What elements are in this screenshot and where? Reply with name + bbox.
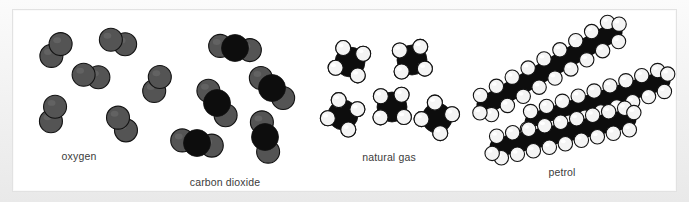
carbon-atom <box>222 35 249 62</box>
label-oxygen: oxygen <box>62 150 97 162</box>
hydrogen-atom <box>521 122 535 136</box>
figure-root: oxygen carbon dioxide natural gas petrol <box>0 0 689 202</box>
hydrogen-atom <box>489 79 503 93</box>
hydrogen-atom <box>473 106 487 120</box>
natural-gas-molecules-svg <box>313 10 478 191</box>
hydrogen-atom <box>601 105 615 119</box>
oxygen-atom <box>49 33 72 56</box>
hydrogen-atom <box>350 102 365 117</box>
oxygen-molecule <box>72 63 110 89</box>
hydrogen-atom <box>542 140 556 154</box>
hydrogen-atom <box>539 99 553 113</box>
carbon-dioxide-molecules-svg <box>153 10 323 191</box>
hydrogen-atom <box>489 129 503 143</box>
oxygen-atom <box>44 95 67 118</box>
oxygen-atom <box>72 63 95 86</box>
group-petrol: petrol <box>463 10 676 191</box>
hydrogen-atom <box>373 89 388 104</box>
methane-molecule <box>373 87 411 125</box>
carbon-atom <box>204 90 231 117</box>
hydrogen-atom <box>350 68 365 83</box>
hydrogen-atom <box>569 34 583 48</box>
hydrogen-atom <box>485 146 499 160</box>
hydrogen-atom <box>548 71 562 85</box>
illustration-panel: oxygen carbon dioxide natural gas petrol <box>12 9 677 192</box>
hydrogen-atom <box>396 109 411 124</box>
hydrogen-atom <box>660 67 674 81</box>
hydrogen-atom <box>510 147 524 161</box>
group-carbon-dioxide: carbon dioxide <box>153 10 323 191</box>
hydrogen-atom <box>427 95 442 110</box>
methane-molecule <box>414 95 460 141</box>
hydrogen-atom <box>635 68 649 82</box>
group-natural-gas: natural gas <box>313 10 478 191</box>
hydrogen-atom <box>537 119 551 133</box>
hydrogen-atom <box>521 61 535 75</box>
hydrogen-atom <box>537 52 551 66</box>
hydrogen-atom <box>580 53 594 67</box>
hydrogen-atom <box>590 130 604 144</box>
hydrogen-atom <box>516 89 530 103</box>
hydrogen-atom <box>320 111 335 126</box>
methane-molecule <box>392 39 432 79</box>
hydrogen-atom <box>532 80 546 94</box>
hydrogen-atom <box>373 110 388 125</box>
hydrogen-atom <box>473 88 487 102</box>
hydrogen-atom <box>433 126 448 141</box>
oxygen-atom <box>107 106 130 129</box>
methane-molecule <box>320 93 365 137</box>
hydrogen-atom <box>505 126 519 140</box>
hydrogen-atom <box>341 122 356 137</box>
hydrogen-atom <box>587 84 601 98</box>
hydrogen-atom <box>331 93 346 108</box>
hydrogen-atom <box>505 70 519 84</box>
label-carbon-dioxide: carbon dioxide <box>190 176 260 188</box>
hydrogen-atom <box>612 17 626 31</box>
hydrogen-atom <box>526 144 540 158</box>
hydrogen-atom <box>619 74 633 88</box>
hydrogen-atom <box>611 34 625 48</box>
hydrogen-atom <box>584 24 598 38</box>
hydrogen-atom <box>336 41 351 56</box>
petrol-molecules-svg <box>463 10 676 191</box>
hydrogen-atom <box>553 115 567 129</box>
hydrogen-atom <box>603 79 617 93</box>
methane-molecule <box>328 41 371 83</box>
hydrogen-atom <box>414 112 429 127</box>
oxygen-molecule <box>107 106 138 142</box>
carbon-dioxide-molecule <box>249 66 294 109</box>
hydrogen-atom <box>657 84 671 98</box>
hydrogen-atom <box>558 137 572 151</box>
hydrogen-atom <box>394 64 409 79</box>
hydrogen-atom <box>571 89 585 103</box>
carbon-dioxide-molecule <box>250 111 279 163</box>
label-natural-gas: natural gas <box>362 151 416 163</box>
hydrogen-atom <box>500 98 514 112</box>
carbon-atom <box>184 130 211 157</box>
hydrogen-atom <box>622 123 636 137</box>
hydrogen-atom <box>445 107 460 122</box>
hydrogen-atom <box>585 108 599 122</box>
hydrogen-atom <box>555 94 569 108</box>
oxygen-molecule <box>40 33 72 68</box>
hydrogen-atom <box>523 104 537 118</box>
hydrogen-atom <box>574 133 588 147</box>
hydrogen-atom <box>417 61 432 76</box>
label-petrol: petrol <box>548 166 575 178</box>
carbon-dioxide-molecule <box>171 129 224 157</box>
hydrogen-atom <box>606 126 620 140</box>
hydrogen-atom <box>356 46 371 61</box>
hydrogen-atom <box>595 43 609 57</box>
hydrogen-atom <box>392 43 407 58</box>
carbon-atom <box>252 124 279 151</box>
hydrogen-atom <box>553 43 567 57</box>
oxygen-molecule <box>99 28 136 56</box>
oxygen-atom <box>99 28 122 51</box>
hydrogen-atom <box>413 39 428 54</box>
hydrogen-atom <box>569 112 583 126</box>
hydrogen-atom <box>328 60 343 75</box>
hydrogen-atom <box>641 89 655 103</box>
carbon-dioxide-molecule <box>209 34 262 61</box>
hydrogen-atom <box>564 62 578 76</box>
hydrogen-atom <box>627 105 641 119</box>
